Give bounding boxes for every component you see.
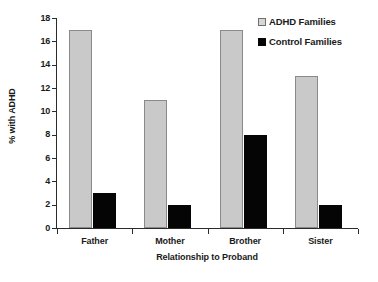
- legend-swatch-icon: [258, 18, 266, 26]
- legend-label: Control Families: [269, 36, 342, 47]
- y-tick-mark: [52, 158, 57, 159]
- y-tick-label: 6: [22, 154, 50, 163]
- bar-group: [132, 18, 207, 228]
- x-tick-mark: [283, 229, 284, 234]
- y-tick-mark: [52, 65, 57, 66]
- y-tick-mark: [52, 135, 57, 136]
- legend-entry[interactable]: ADHD Families: [258, 14, 342, 29]
- x-axis-title: Relationship to Proband: [56, 252, 358, 262]
- y-tick-mark: [52, 205, 57, 206]
- y-tick-label: 16: [22, 37, 50, 46]
- x-tick-mark: [358, 229, 359, 234]
- y-tick-label: 10: [22, 107, 50, 116]
- chart-legend: ADHD FamiliesControl Families: [258, 14, 342, 54]
- y-tick-mark: [52, 41, 57, 42]
- y-tick-mark: [52, 181, 57, 182]
- x-tick-label: Father: [57, 236, 132, 247]
- bar-chart-figure: % with ADHD 024681012141618 FatherMother…: [0, 0, 378, 282]
- y-tick-label: 0: [22, 224, 50, 233]
- bar-father-control-families[interactable]: [93, 193, 116, 228]
- y-tick-label: 18: [22, 14, 50, 23]
- y-tick-label: 2: [22, 200, 50, 209]
- x-axis-line: [56, 228, 358, 229]
- x-tick-mark: [208, 229, 209, 234]
- bar-sister-control-families[interactable]: [319, 205, 342, 228]
- x-tick-label: Sister: [283, 236, 358, 247]
- legend-swatch-icon: [258, 38, 266, 46]
- y-tick-mark: [52, 111, 57, 112]
- bar-group: [57, 18, 132, 228]
- legend-label: ADHD Families: [269, 16, 336, 27]
- bar-mother-control-families[interactable]: [168, 205, 191, 228]
- y-tick-mark: [52, 18, 57, 19]
- x-tick-mark: [132, 229, 133, 234]
- y-tick-label: 8: [22, 130, 50, 139]
- x-tick-label: Mother: [132, 236, 207, 247]
- y-axis-title-text: % with ADHD: [7, 88, 17, 144]
- x-tick-mark: [57, 229, 58, 234]
- bar-brother-control-families[interactable]: [244, 135, 267, 228]
- y-axis-tick-labels: 024681012141618: [22, 0, 50, 282]
- x-tick-label: Brother: [208, 236, 283, 247]
- y-axis-title: % with ADHD: [2, 0, 22, 232]
- y-tick-label: 4: [22, 177, 50, 186]
- bar-mother-adhd-families[interactable]: [144, 100, 167, 228]
- y-tick-mark: [52, 88, 57, 89]
- bar-father-adhd-families[interactable]: [69, 30, 92, 228]
- legend-entry[interactable]: Control Families: [258, 34, 342, 49]
- bar-sister-adhd-families[interactable]: [295, 76, 318, 228]
- y-tick-label: 12: [22, 84, 50, 93]
- y-tick-label: 14: [22, 60, 50, 69]
- bar-brother-adhd-families[interactable]: [220, 30, 243, 228]
